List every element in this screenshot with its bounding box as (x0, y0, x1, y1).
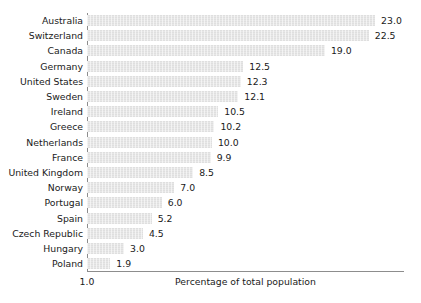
bar-value-label: 3.0 (130, 241, 145, 257)
category-label: Switzerland (0, 28, 83, 44)
category-label: Spain (0, 211, 83, 227)
bar-value-label: 12.1 (244, 89, 265, 105)
bar-row: Australia23.0 (87, 13, 403, 29)
bar-row: Norway7.0 (87, 180, 403, 196)
bar (87, 91, 238, 102)
category-label: France (0, 150, 83, 166)
bar-value-label: 22.5 (375, 28, 396, 44)
bar-value-label: 12.3 (247, 74, 268, 90)
category-label: Canada (0, 43, 83, 59)
category-label: Australia (0, 13, 83, 29)
bar-value-label: 10.2 (220, 119, 241, 135)
bar-row: United States12.3 (87, 74, 403, 90)
bar-value-label: 4.5 (149, 226, 164, 242)
category-label: Hungary (0, 241, 83, 257)
bar-value-label: 10.0 (218, 135, 239, 151)
bar (87, 137, 212, 148)
bar-value-label: 8.5 (199, 165, 214, 181)
bar (87, 30, 369, 41)
bar-row: Switzerland22.5 (87, 28, 403, 44)
bar (87, 228, 143, 239)
category-label: Germany (0, 59, 83, 75)
category-label: United States (0, 74, 83, 90)
category-label: Netherlands (0, 135, 83, 151)
category-label: Ireland (0, 104, 83, 120)
horizontal-bar-chart: Australia23.0Switzerland22.5Canada19.0Ge… (0, 0, 421, 303)
bar (87, 258, 110, 269)
bar-row: France9.9 (87, 150, 403, 166)
category-label: United Kingdom (0, 165, 83, 181)
bar-row: Sweden12.1 (87, 89, 403, 105)
bar (87, 76, 241, 87)
category-label: Sweden (0, 89, 83, 105)
bar-row: United Kingdom8.5 (87, 165, 403, 181)
bar-row: Germany12.5 (87, 59, 403, 75)
bar-value-label: 9.9 (217, 150, 232, 166)
bar (87, 152, 211, 163)
bar-row: Portugal6.0 (87, 195, 403, 211)
bar-value-label: 1.9 (116, 256, 131, 272)
category-label: Norway (0, 180, 83, 196)
category-label: Poland (0, 256, 83, 272)
bar-row: Canada19.0 (87, 43, 403, 59)
bar-row: Hungary3.0 (87, 241, 403, 257)
bar (87, 213, 152, 224)
bar-row: Ireland10.5 (87, 104, 403, 120)
bar-value-label: 19.0 (331, 43, 352, 59)
bar-value-label: 6.0 (168, 195, 183, 211)
x-axis-title: Percentage of total population (87, 274, 404, 290)
bar-value-label: 7.0 (180, 180, 195, 196)
bar (87, 106, 218, 117)
bar (87, 167, 193, 178)
bar-row: Czech Republic4.5 (87, 226, 403, 242)
bar (87, 121, 214, 132)
bar (87, 61, 243, 72)
bar-row: Greece10.2 (87, 119, 403, 135)
bar (87, 15, 375, 26)
bar-value-label: 12.5 (249, 59, 270, 75)
bar (87, 197, 162, 208)
bar-row: Poland1.9 (87, 256, 403, 272)
bar-value-label: 5.2 (158, 211, 173, 227)
plot-area: Australia23.0Switzerland22.5Canada19.0Ge… (87, 13, 403, 272)
bar (87, 45, 325, 56)
category-label: Portugal (0, 195, 83, 211)
category-label: Czech Republic (0, 226, 83, 242)
bar-row: Netherlands10.0 (87, 135, 403, 151)
category-label: Greece (0, 119, 83, 135)
bar-value-label: 23.0 (381, 13, 402, 29)
bar (87, 243, 124, 254)
bar (87, 182, 174, 193)
bar-value-label: 10.5 (224, 104, 245, 120)
bar-row: Spain5.2 (87, 211, 403, 227)
